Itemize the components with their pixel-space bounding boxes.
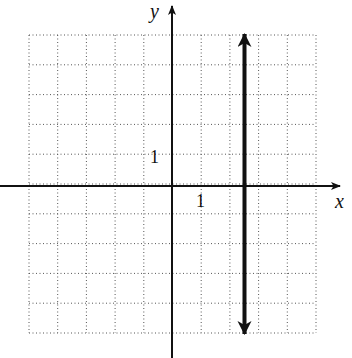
y-tick-label-1: 1 bbox=[150, 147, 159, 167]
x-axis-label: x bbox=[334, 190, 344, 212]
y-axis-label: y bbox=[148, 0, 159, 23]
coordinate-plane: y x 1 1 bbox=[0, 0, 352, 358]
x-tick-label-1: 1 bbox=[196, 191, 205, 211]
